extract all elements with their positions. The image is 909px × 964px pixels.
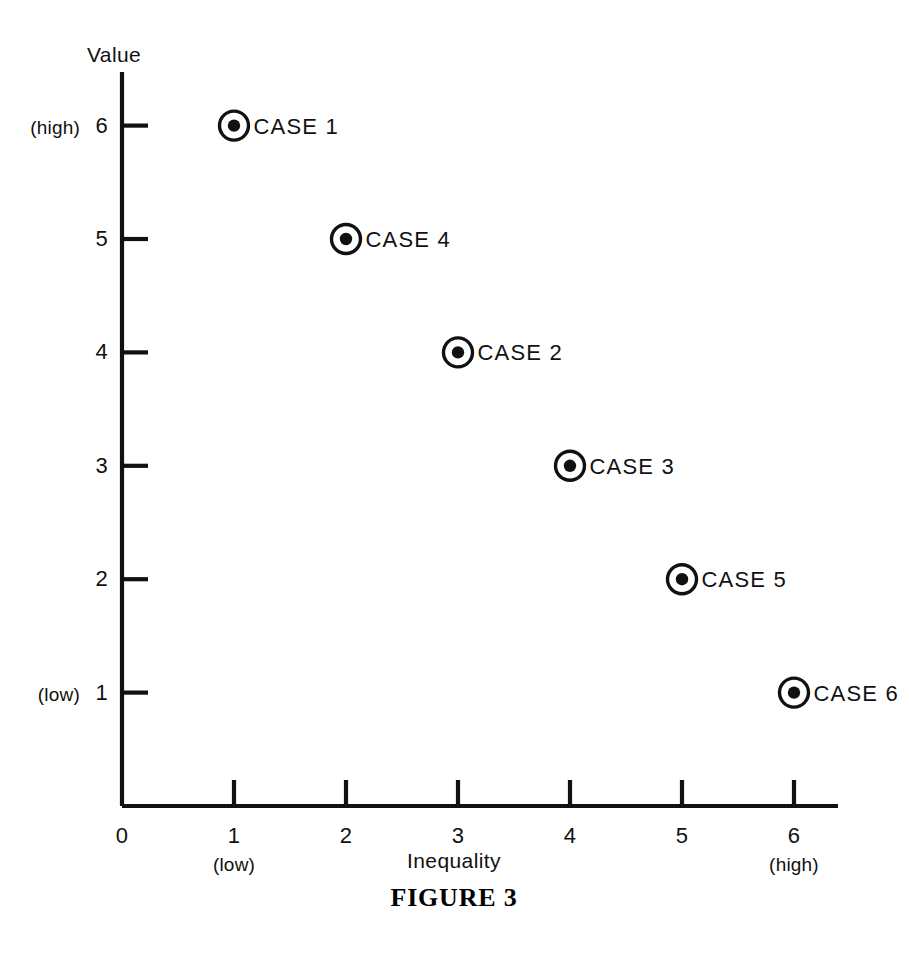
- x-tick-label-4: 4: [564, 825, 576, 847]
- x-axis-title: Inequality: [407, 850, 501, 871]
- figure-caption: FIGURE 3: [390, 885, 517, 911]
- marker-center-dot-icon: [788, 686, 800, 698]
- plot-canvas: [0, 0, 909, 964]
- y-tick-qualifier-1: (low): [38, 684, 80, 703]
- data-point-label-1: CASE 1: [254, 116, 339, 138]
- y-axis-title: Value: [87, 44, 141, 65]
- y-tick-label-4: 4: [96, 341, 108, 363]
- figure-3: 01(low)23456(high)1(low)23456(high)Value…: [0, 0, 909, 964]
- marker-center-dot-icon: [228, 119, 240, 131]
- y-tick-label-3: 3: [96, 455, 108, 477]
- marker-center-dot-icon: [340, 233, 352, 245]
- y-tick-label-6: 6: [96, 115, 108, 137]
- x-tick-label-1: 1: [228, 825, 240, 847]
- data-point-5[interactable]: [668, 565, 697, 594]
- marker-center-dot-icon: [452, 346, 464, 358]
- data-point-1[interactable]: [220, 111, 249, 140]
- x-tick-label-5: 5: [676, 825, 688, 847]
- y-tick-label-2: 2: [96, 568, 108, 590]
- data-point-label-3: CASE 2: [478, 342, 563, 364]
- x-tick-label-6: 6: [788, 825, 800, 847]
- x-tick-label-2: 2: [340, 825, 352, 847]
- data-point-3[interactable]: [444, 338, 473, 367]
- x-tick-label-0: 0: [116, 825, 128, 847]
- data-point-label-6: CASE 6: [814, 683, 899, 705]
- x-tick-qualifier-1: (low): [213, 855, 255, 874]
- x-tick-qualifier-6: (high): [769, 855, 819, 874]
- y-tick-qualifier-6: (high): [30, 117, 80, 136]
- x-tick-label-3: 3: [452, 825, 464, 847]
- y-tick-label-1: 1: [96, 682, 108, 704]
- scatter-plot: 01(low)23456(high)1(low)23456(high)Value…: [0, 0, 909, 964]
- data-point-4[interactable]: [556, 451, 585, 480]
- data-point-2[interactable]: [332, 225, 361, 254]
- y-tick-label-5: 5: [96, 228, 108, 250]
- data-point-label-4: CASE 3: [590, 456, 675, 478]
- data-point-6[interactable]: [780, 678, 809, 707]
- marker-center-dot-icon: [564, 460, 576, 472]
- data-point-label-2: CASE 4: [366, 229, 451, 251]
- data-point-label-5: CASE 5: [702, 569, 787, 591]
- marker-center-dot-icon: [676, 573, 688, 585]
